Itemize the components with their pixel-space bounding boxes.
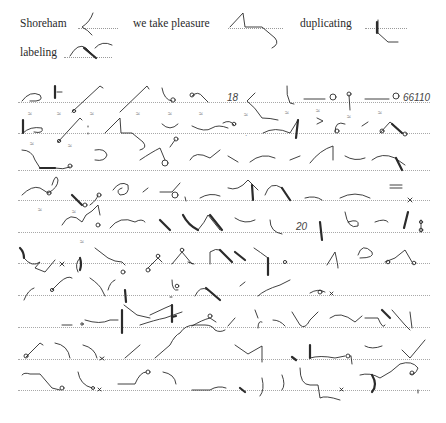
line-10-outlines (22, 363, 418, 400)
svg-text:≈: ≈ (30, 140, 34, 147)
line-7-outlines (24, 277, 333, 322)
svg-text:·: · (245, 132, 247, 139)
svg-text:≈: ≈ (90, 110, 94, 117)
svg-text:≈: ≈ (199, 110, 203, 117)
svg-text:≈: ≈ (316, 107, 320, 114)
line-4-outlines: ≈ ≈ (22, 177, 412, 215)
header-outlines (70, 13, 398, 58)
svg-text:≈: ≈ (378, 109, 382, 116)
svg-text:≈: ≈ (347, 113, 351, 120)
line-5-outlines: ≈ (62, 205, 423, 245)
shorthand-outlines: ≈ ≈ ≈ ≈ ≈ ≈ ≈ ≈ ≈ ≈ ≈ ≈ ≈ · (0, 0, 446, 423)
line-1-outlines: ≈ ≈ ≈ ≈ ≈ ≈ ≈ ≈ ≈ ≈ ≈ (22, 86, 399, 120)
svg-text:≈: ≈ (244, 111, 248, 118)
svg-text:≈: ≈ (136, 110, 140, 117)
svg-text:≈: ≈ (285, 109, 289, 116)
line-2-outlines: ≈ ≈ · (23, 118, 407, 150)
svg-text:≈: ≈ (72, 208, 76, 215)
svg-text:≈: ≈ (80, 238, 84, 245)
svg-text:≈: ≈ (38, 206, 42, 213)
svg-text:≈: ≈ (68, 142, 72, 149)
line-9-outlines (24, 325, 425, 364)
line-3-outlines (22, 137, 405, 170)
line-6-outlines (20, 248, 416, 275)
svg-text:≈: ≈ (57, 110, 61, 117)
svg-text:≈: ≈ (168, 110, 172, 117)
svg-text:≈: ≈ (28, 110, 32, 117)
line-8-outlines (62, 310, 412, 333)
